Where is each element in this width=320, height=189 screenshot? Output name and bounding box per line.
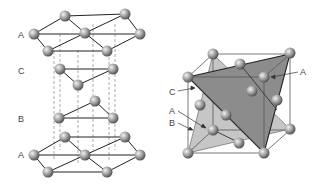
crystal-stacking-diagram: A C B A xyxy=(0,0,320,189)
layer-b-bonds xyxy=(59,101,113,118)
label-c-plane: C xyxy=(169,87,176,97)
label-a-right: A xyxy=(300,67,306,77)
stacking-layers-figure: A C B A xyxy=(18,9,146,178)
layer-c-bonds xyxy=(60,69,113,85)
label-a-left: A xyxy=(169,106,175,116)
layer-label-b: B xyxy=(18,114,24,124)
layer-label-a-bottom: A xyxy=(18,150,24,160)
layer-label-a-top: A xyxy=(18,30,24,40)
layer-label-c: C xyxy=(18,66,25,76)
label-b-plane: B xyxy=(169,118,175,128)
fcc-cube-figure: A C A B xyxy=(169,48,306,159)
vertical-guide-lines xyxy=(54,24,115,165)
